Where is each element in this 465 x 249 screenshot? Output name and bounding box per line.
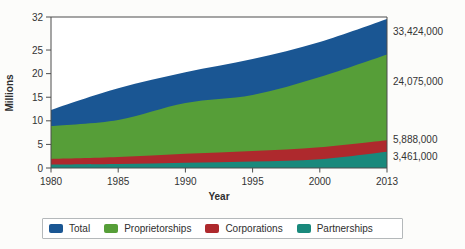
stacked-area-chart: 32252015105019801985199019952000201333,4… — [0, 0, 465, 212]
areas-layer — [51, 17, 387, 168]
legend-item-corporations: Corporations — [205, 224, 282, 234]
legend-label-partnerships: Partnerships — [317, 224, 373, 234]
value-label-partnerships: 3,461,000 — [393, 151, 438, 162]
corporations-legend-swatch — [205, 224, 219, 233]
total-legend-swatch — [49, 224, 63, 233]
legend-label-total: Total — [69, 224, 90, 234]
x-tick-label: 1995 — [241, 176, 264, 187]
legend-item-partnerships: Partnerships — [297, 224, 373, 234]
legend-item-total: Total — [49, 224, 90, 234]
y-tick-label: 0 — [37, 163, 43, 174]
y-tick-label: 5 — [37, 139, 43, 150]
x-tick-label: 1990 — [174, 176, 197, 187]
y-tick-label: 20 — [32, 68, 44, 79]
x-tick-label: 1985 — [107, 176, 130, 187]
y-tick-label: 15 — [32, 92, 44, 103]
partnerships-legend-swatch — [297, 224, 311, 233]
legend-label-proprietorships: Proprietorships — [124, 224, 191, 234]
x-tick-label: 1980 — [40, 176, 63, 187]
value-label-proprietorships: 24,075,000 — [393, 76, 443, 87]
proprietorships-legend-swatch — [104, 224, 118, 233]
value-label-corporations: 5,888,000 — [393, 134, 438, 145]
value-label-total: 33,424,000 — [393, 26, 443, 37]
x-tick-label: 2013 — [376, 176, 399, 187]
y-axis-title: Millions — [4, 74, 15, 112]
x-axis-title: Year — [208, 191, 229, 202]
x-tick-label: 2000 — [309, 176, 332, 187]
y-tick-label: 32 — [32, 12, 44, 23]
y-tick-label: 25 — [32, 45, 44, 56]
legend-box: TotalProprietorshipsCorporationsPartners… — [42, 218, 403, 239]
legend-label-corporations: Corporations — [225, 224, 282, 234]
figure: 32252015105019801985199019952000201333,4… — [0, 0, 465, 249]
y-tick-label: 10 — [32, 115, 44, 126]
legend-item-proprietorships: Proprietorships — [104, 224, 191, 234]
